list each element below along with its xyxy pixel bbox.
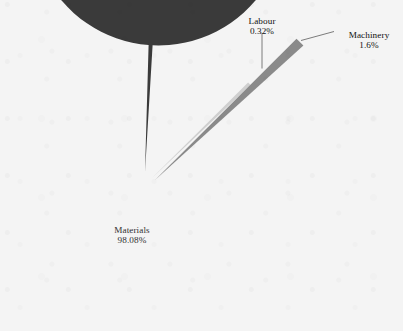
- slice-label-machinery-percent: 1.6%: [336, 40, 402, 50]
- slice-label-labour-percent: 0.32%: [228, 26, 296, 36]
- slice-label-machinery-name: Machinery: [336, 30, 402, 40]
- slice-label-labour-name: Labour: [228, 16, 296, 26]
- slice-label-machinery: Machinery 1.6%: [336, 30, 402, 51]
- slice-label-labour: Labour 0.32%: [228, 16, 296, 37]
- slice-label-materials: Materials 98.08%: [96, 225, 168, 246]
- pie-slice-labour[interactable]: [152, 82, 251, 178]
- pie-slice-machinery[interactable]: [155, 39, 304, 181]
- pie-chart: Labour 0.32% Machinery 1.6% Materials 98…: [0, 0, 403, 331]
- slice-label-materials-name: Materials: [96, 225, 168, 235]
- slice-label-materials-percent: 98.08%: [96, 235, 168, 245]
- leader-line-machinery: [301, 32, 334, 41]
